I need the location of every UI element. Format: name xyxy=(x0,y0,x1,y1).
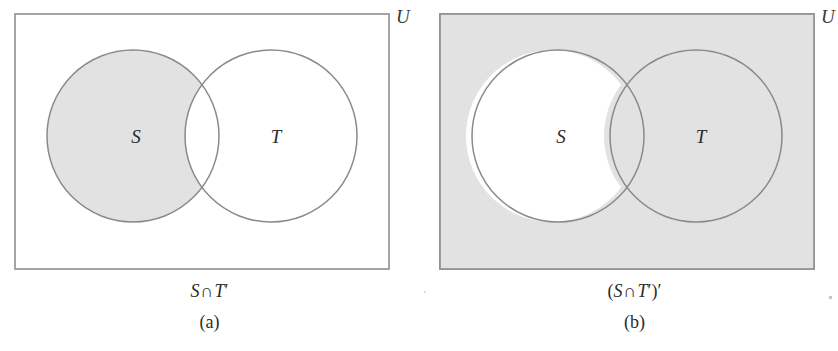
venn-panel-a: S T U S∩T′ (a) xyxy=(0,0,419,351)
caption-expression-a: S∩T′ xyxy=(0,281,419,302)
shaded-region-a xyxy=(15,14,389,269)
set-label-s-b: S xyxy=(556,126,566,147)
caption-outer-prime-b: ′ xyxy=(658,281,662,301)
universe-label-b: U xyxy=(821,7,835,26)
caption-left-set-b: S xyxy=(614,281,623,301)
universe-label-a: U xyxy=(396,7,410,26)
scan-speck xyxy=(829,296,832,299)
venn-panel-b: S T U (S∩T′)′ (b) xyxy=(419,0,838,351)
set-label-t-b: T xyxy=(696,126,708,147)
caption-right-prime-a: ′ xyxy=(225,281,229,301)
caption-right-set-a: T xyxy=(215,281,225,301)
caption-operator-a: ∩ xyxy=(200,281,215,301)
caption-right-set-b: T xyxy=(638,281,648,301)
caption-index-a: (a) xyxy=(0,312,419,333)
caption-left-set-a: S xyxy=(191,281,200,301)
set-label-s-a: S xyxy=(131,126,141,147)
caption-expression-b: (S∩T′)′ xyxy=(425,281,838,302)
venn-diagram-figure: S T U S∩T′ (a) xyxy=(0,0,838,351)
caption-index-b: (b) xyxy=(425,312,838,333)
venn-graphic-b: S T xyxy=(419,0,838,280)
scan-speck xyxy=(424,291,426,293)
venn-graphic-a: S T xyxy=(0,0,419,280)
shaded-region-b xyxy=(440,14,814,269)
set-label-t-a: T xyxy=(271,126,283,147)
caption-operator-b: ∩ xyxy=(623,281,638,301)
